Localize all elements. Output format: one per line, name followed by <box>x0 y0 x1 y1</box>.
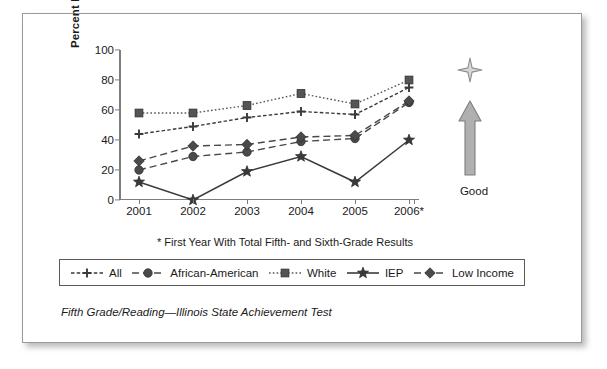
data-point-marker <box>83 268 92 277</box>
data-point-marker <box>405 76 413 84</box>
legend-swatch-star-icon <box>346 266 380 280</box>
data-point-marker <box>297 90 305 98</box>
legend-item-low-income[interactable]: Low Income <box>413 266 514 280</box>
data-point-marker <box>144 268 152 276</box>
y-tick-mark <box>115 79 120 80</box>
slide-frame: Percent Meets/Exceeds 020406080100200120… <box>22 13 582 343</box>
legend-label: White <box>307 267 336 279</box>
data-point-marker <box>135 166 143 174</box>
good-direction-annotation: Good <box>443 57 513 212</box>
data-point-marker <box>295 151 306 161</box>
x-tick-mark <box>139 199 140 204</box>
x-tick-label-2001: 2001 <box>126 205 152 217</box>
legend-label: IEP <box>385 267 404 279</box>
series-line <box>139 101 409 161</box>
data-point-marker <box>135 109 143 117</box>
data-point-marker <box>425 267 435 277</box>
y-tick-label-0: 0 <box>108 194 114 206</box>
x-tick-mark <box>355 199 356 204</box>
slide-page: Percent Meets/Exceeds 020406080100200120… <box>0 0 607 369</box>
y-tick-label-60: 60 <box>101 104 114 116</box>
four-point-star-icon <box>457 57 483 87</box>
series-african-american <box>135 98 413 174</box>
data-point-marker <box>135 130 144 139</box>
x-tick-mark <box>409 199 410 204</box>
x-tick-label-2003: 2003 <box>234 205 260 217</box>
series-line <box>139 80 409 113</box>
data-point-marker <box>349 176 360 186</box>
chart-axes: 020406080100200120022003200420052006* <box>119 50 419 200</box>
legend-swatch-square-icon <box>268 266 302 280</box>
chart-legend: AllAfrican-AmericanWhiteIEPLow Income <box>59 259 525 286</box>
data-point-marker <box>357 267 368 277</box>
y-tick-label-80: 80 <box>101 74 114 86</box>
series-all <box>135 83 414 138</box>
up-arrow-icon <box>457 99 483 181</box>
data-point-marker <box>189 122 198 131</box>
data-point-marker <box>281 269 289 277</box>
data-point-marker <box>242 139 252 149</box>
y-tick-mark <box>115 139 120 140</box>
chart-series-layer <box>119 50 419 200</box>
chart-footnote: * First Year With Total Fifth- and Sixth… <box>75 236 495 248</box>
y-tick-mark <box>115 199 120 200</box>
legend-item-white[interactable]: White <box>268 266 336 280</box>
series-line <box>139 140 409 200</box>
x-tick-label-2005: 2005 <box>342 205 368 217</box>
data-point-marker <box>133 176 144 186</box>
y-tick-label-40: 40 <box>101 134 114 146</box>
x-tick-label-2004: 2004 <box>288 205 314 217</box>
chart-caption: Fifth Grade/Reading—Illinois State Achie… <box>61 306 332 318</box>
legend-item-all[interactable]: All <box>70 266 122 280</box>
data-point-marker <box>188 141 198 151</box>
series-line <box>139 103 409 171</box>
y-tick-mark <box>115 109 120 110</box>
x-tick-mark <box>414 199 415 204</box>
legend-label: African-American <box>170 267 258 279</box>
y-tick-mark <box>115 169 120 170</box>
data-point-marker <box>405 83 414 92</box>
y-axis-title: Percent Meets/Exceeds <box>69 0 85 58</box>
chart-plot-area: Percent Meets/Exceeds 020406080100200120… <box>75 44 495 234</box>
series-white <box>135 76 413 117</box>
legend-label: Low Income <box>452 267 514 279</box>
x-tick-label-2006star: 2006* <box>394 205 424 217</box>
data-point-marker <box>134 156 144 166</box>
legend-item-iep[interactable]: IEP <box>346 266 404 280</box>
x-tick-label-2002: 2002 <box>180 205 206 217</box>
x-tick-mark <box>301 199 302 204</box>
legend-item-african-american[interactable]: African-American <box>131 266 258 280</box>
data-point-marker <box>189 109 197 117</box>
data-point-marker <box>351 100 359 108</box>
legend-label: All <box>109 267 122 279</box>
data-point-marker <box>351 110 360 119</box>
data-point-marker <box>243 102 251 110</box>
data-point-marker <box>297 107 306 116</box>
data-point-marker <box>243 113 252 122</box>
y-tick-mark <box>115 49 120 50</box>
x-tick-mark <box>247 199 248 204</box>
data-point-marker <box>189 152 197 160</box>
y-tick-label-20: 20 <box>101 164 114 176</box>
y-tick-label-100: 100 <box>95 44 114 56</box>
good-label: Good <box>443 185 505 197</box>
legend-swatch-diamond-icon <box>413 266 447 280</box>
legend-swatch-plus-icon <box>70 266 104 280</box>
legend-swatch-circle-icon <box>131 266 165 280</box>
data-point-marker <box>241 166 252 176</box>
series-iep <box>133 134 414 204</box>
x-tick-mark <box>193 199 194 204</box>
